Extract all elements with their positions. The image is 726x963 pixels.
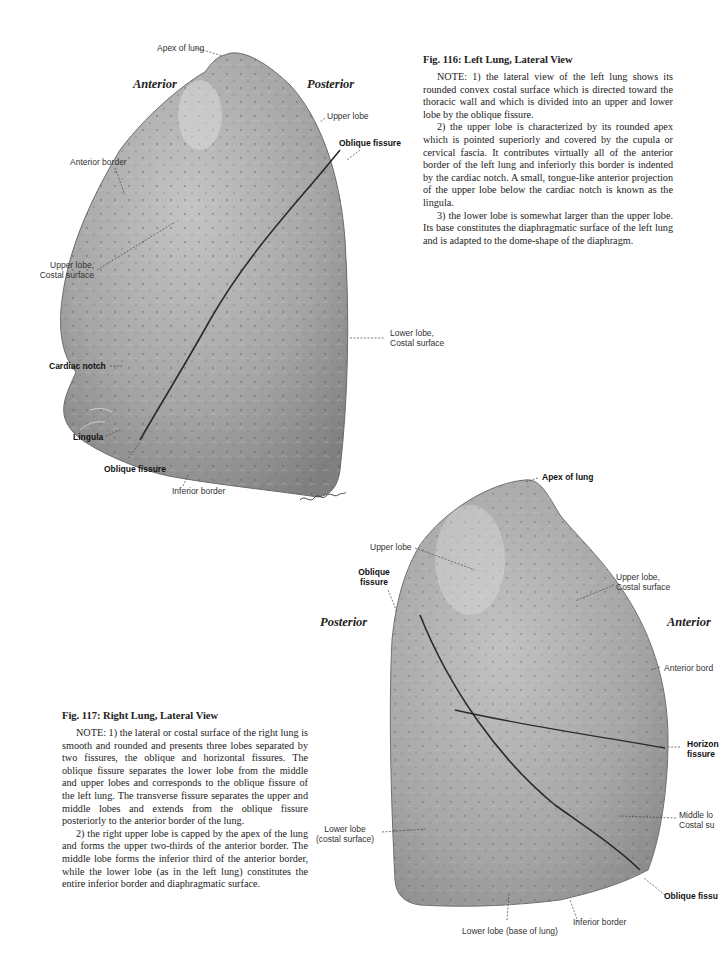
- direction-posterior-right: Posterior: [320, 615, 367, 630]
- label-oblique-fissure-bottom-left: Oblique fissure: [104, 464, 166, 474]
- right-lung-illustration: [390, 480, 668, 906]
- label-horizontal-fissure: Horizon fissure: [687, 739, 719, 759]
- label-oblique-fissure-top-right: Oblique fissure: [356, 567, 392, 587]
- label-lingula: Lingula: [73, 432, 103, 442]
- figure-116-note-3: 3) the lower lobe is somewhat larger tha…: [423, 210, 673, 248]
- label-apex-of-lung-right: Apex of lung: [542, 472, 593, 482]
- direction-posterior-left: Posterior: [307, 77, 354, 92]
- left-lung-illustration: [61, 53, 348, 497]
- figure-116-title: Fig. 116: Left Lung, Lateral View: [423, 54, 673, 65]
- figure-117-title: Fig. 117: Right Lung, Lateral View: [62, 710, 308, 721]
- label-inferior-border-right: Inferior border: [573, 917, 626, 927]
- label-upper-lobe-right: Upper lobe: [370, 542, 412, 552]
- direction-anterior-left: Anterior: [133, 77, 177, 92]
- direction-anterior-right: Anterior: [667, 615, 711, 630]
- label-cardiac-notch: Cardiac notch: [49, 361, 106, 371]
- label-inferior-border-left: Inferior border: [172, 486, 225, 496]
- figure-116-caption: Fig. 116: Left Lung, Lateral View NOTE: …: [423, 54, 673, 247]
- figure-116-note-1: NOTE: 1) the lateral view of the left lu…: [423, 71, 673, 121]
- label-upper-lobe-costal-right: Upper lobe, Costal surface: [616, 572, 670, 592]
- label-oblique-fissure-bottom-right: Oblique fissu: [664, 891, 718, 901]
- label-upper-lobe-costal-left: Upper lobe, Costal surface: [30, 260, 94, 280]
- figure-117-note-1: NOTE: 1) the lateral or costal surface o…: [62, 727, 308, 828]
- label-lower-lobe-costal-right: Lower lobe (costal surface): [310, 824, 380, 844]
- label-lower-lobe-costal-left: Lower lobe, Costal surface: [390, 328, 444, 348]
- figure-117-caption: Fig. 117: Right Lung, Lateral View NOTE:…: [62, 710, 308, 891]
- label-anterior-border-right: Anterior bord: [664, 663, 713, 673]
- figure-117-note-2: 2) the right upper lobe is capped by the…: [62, 828, 308, 891]
- label-apex-of-lung-left: Apex of lung: [157, 43, 204, 53]
- label-middle-lobe-costal: Middle lo Costal su: [679, 810, 714, 830]
- label-anterior-border-left: Anterior border: [70, 157, 127, 167]
- label-upper-lobe-left: Upper lobe: [327, 111, 369, 121]
- label-lower-lobe-base: Lower lobe (base of lung): [462, 926, 558, 936]
- figure-116-note-2: 2) the upper lobe is characterized by it…: [423, 121, 673, 209]
- label-oblique-fissure-top-left: Oblique fissure: [339, 138, 401, 148]
